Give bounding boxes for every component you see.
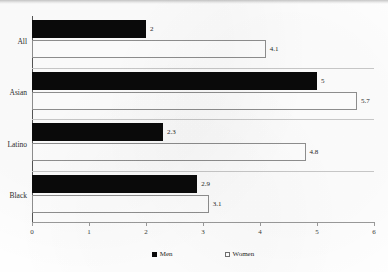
bar-men[interactable] [32,72,317,90]
bar-women[interactable] [32,143,306,161]
x-tick-label: 6 [372,228,376,236]
bar-row: 5.7 [32,92,374,110]
bar-row: 4.1 [32,40,374,58]
bar-women[interactable] [32,40,266,58]
category-label: Asian [10,88,28,97]
x-tick-mark [203,222,204,226]
bar-women[interactable] [32,92,357,110]
plot-area: All24.1Asian55.7Latino2.34.8Black2.93.1 [32,16,374,222]
x-tick-mark [260,222,261,226]
bar-value-label: 2.9 [201,180,210,188]
x-tick-label: 1 [87,228,91,236]
x-tick-label: 2 [144,228,148,236]
legend-label-men: Men [160,250,173,258]
bar-men[interactable] [32,123,163,141]
bar-group: All24.1 [32,16,374,68]
bar-row: 2.9 [32,175,374,193]
category-label: Black [10,191,28,200]
bar-value-label: 5 [321,77,325,85]
legend-item-women[interactable]: Women [225,250,255,258]
x-tick-mark [89,222,90,226]
bar-row: 2.3 [32,123,374,141]
category-label: Latino [7,140,27,149]
bar-value-label: 2 [150,25,154,33]
bar-value-label: 2.3 [167,128,176,136]
bar-row: 4.8 [32,143,374,161]
x-tick-mark [146,222,147,226]
bar-row: 2 [32,20,374,38]
bar-row: 3.1 [32,195,374,213]
x-tick-label: 0 [30,228,34,236]
x-tick-mark [374,222,375,226]
x-tick-label: 3 [201,228,205,236]
bar-men[interactable] [32,175,197,193]
bar-men[interactable] [32,20,146,38]
bar-value-label: 4.1 [270,45,279,53]
legend-swatch-men-icon [152,252,157,257]
x-tick-label: 4 [258,228,262,236]
chart-legend: Men Women [32,250,374,258]
x-tick-mark [317,222,318,226]
bar-value-label: 5.7 [361,97,370,105]
legend-swatch-women-icon [225,252,230,257]
bar-group: Asian55.7 [32,68,374,120]
legend-item-men[interactable]: Men [152,250,173,258]
x-tick-mark [32,222,33,226]
x-tick-label: 5 [315,228,319,236]
legend-label-women: Women [233,250,255,258]
bar-value-label: 4.8 [310,148,319,156]
bar-chart: 0123456 All24.1Asian55.7Latino2.34.8Blac… [0,0,388,272]
category-label: All [17,37,27,46]
bar-group: Black2.93.1 [32,171,374,223]
bar-group: Latino2.34.8 [32,119,374,171]
bar-row: 5 [32,72,374,90]
bar-women[interactable] [32,195,209,213]
bar-value-label: 3.1 [213,200,222,208]
